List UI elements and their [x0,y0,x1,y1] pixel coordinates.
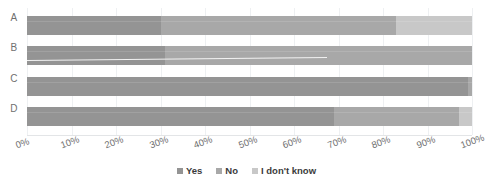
category-label-b: B [6,42,22,53]
legend-label: I don't know [261,165,316,176]
x-tick-label: 60% [281,133,303,150]
category-label-c: C [6,73,22,84]
bar-segment [334,107,459,126]
legend-item[interactable]: No [216,165,238,176]
x-tick-label: 30% [148,133,170,150]
x-tick-label: 80% [370,133,392,150]
legend-swatch-icon [252,168,258,174]
bar-row [27,46,472,65]
legend-item[interactable]: I don't know [252,165,316,176]
x-tick-label: 50% [237,133,259,150]
category-label-d: D [6,103,22,114]
bar-segment [27,77,468,96]
bar-segment [165,46,472,65]
legend-item[interactable]: Yes [177,165,202,176]
bar-row [27,16,472,35]
legend-label: No [225,165,238,176]
bar-segment [27,46,165,65]
x-tick-label: 10% [59,133,81,150]
x-tick-label: 90% [415,133,437,150]
bar-segment [459,107,472,126]
x-tick-label: 0% [14,135,31,150]
stacked-bar-chart: A B C D 0%10%20%30%40%50%60%70%80%90%100… [0,0,493,185]
plot-area [27,8,472,135]
legend-swatch-icon [216,168,222,174]
bar-segment [27,107,334,126]
bar-segment [27,16,161,35]
bar-row [27,77,472,96]
bar-segment [396,16,472,35]
chart-legend: YesNoI don't know [0,165,493,176]
legend-label: Yes [186,165,202,176]
bar-row [27,107,472,126]
legend-swatch-icon [177,168,183,174]
category-label-a: A [6,12,22,23]
bar-segment [161,16,397,35]
x-tick-label: 20% [103,133,125,150]
x-tick-label: 40% [192,133,214,150]
gridline-100 [472,8,473,135]
bar-segment [468,77,472,96]
x-tick-label: 70% [326,133,348,150]
